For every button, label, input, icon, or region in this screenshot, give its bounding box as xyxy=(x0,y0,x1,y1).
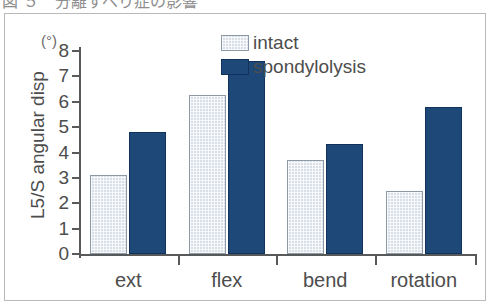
x-axis-separator xyxy=(178,254,180,265)
bar-flex-intact xyxy=(189,95,226,254)
x-axis-end-tick xyxy=(475,254,477,265)
bar-rotation-spondylolysis xyxy=(425,107,462,254)
plot-area xyxy=(79,51,473,254)
y-tick-label: 7 xyxy=(29,66,69,85)
y-tick-label: 3 xyxy=(29,168,69,187)
legend-label-intact: intact xyxy=(253,33,298,53)
x-axis-label-rotation: rotation xyxy=(375,269,474,291)
legend-item-spondylolysis: spondylolysis xyxy=(221,56,461,78)
y-axis-tick-labels: 876543210 xyxy=(23,14,69,302)
x-axis-separator xyxy=(375,254,377,265)
y-tick-label: 8 xyxy=(29,41,69,60)
top-caption-text: 図 ５ 分離すべり症の影響 xyxy=(2,0,198,12)
y-tick-label: 6 xyxy=(29,92,69,111)
figure-frame: (°) L5/S angular disp 876543210 extflexb… xyxy=(4,13,486,301)
bar-bend-intact xyxy=(287,160,324,254)
chart-legend: intact spondylolysis xyxy=(221,32,461,80)
y-tick-label: 2 xyxy=(29,193,69,212)
x-axis-separator xyxy=(276,254,278,265)
bar-flex-spondylolysis xyxy=(228,61,265,254)
bar-ext-spondylolysis xyxy=(129,132,166,254)
legend-swatch-intact xyxy=(221,35,249,51)
legend-label-spondylolysis: spondylolysis xyxy=(253,57,366,77)
legend-item-intact: intact xyxy=(221,32,461,54)
bar-ext-intact xyxy=(90,175,127,254)
x-axis-label-bend: bend xyxy=(276,269,375,291)
top-caption-strip: 図 ５ 分離すべり症の影響 xyxy=(0,0,492,14)
bar-rotation-intact xyxy=(386,191,423,254)
legend-swatch-spondylolysis xyxy=(221,59,249,75)
x-axis-line xyxy=(79,254,477,256)
x-axis-label-ext: ext xyxy=(79,269,178,291)
y-tick-label: 1 xyxy=(29,219,69,238)
y-tick-label: 0 xyxy=(29,244,69,263)
bar-bend-spondylolysis xyxy=(326,144,363,254)
y-tick-label: 4 xyxy=(29,143,69,162)
y-tick-label: 5 xyxy=(29,117,69,136)
x-axis-label-flex: flex xyxy=(178,269,277,291)
